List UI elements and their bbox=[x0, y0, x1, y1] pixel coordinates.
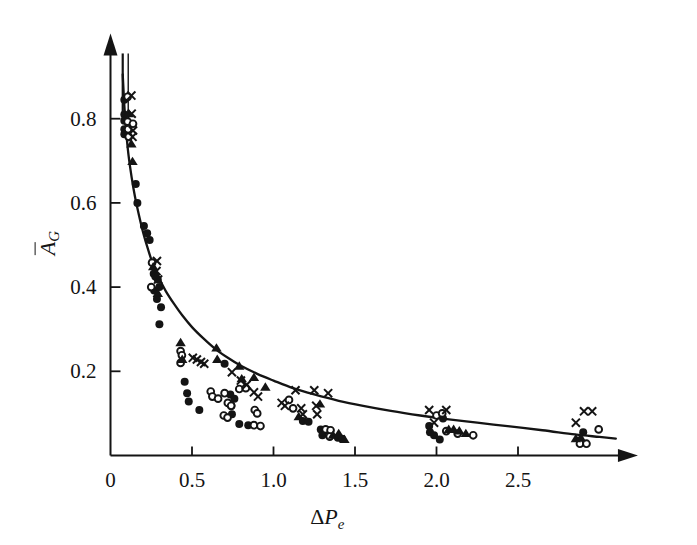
data-point-open-circle-23 bbox=[257, 423, 264, 430]
data-point-filled-circle-6 bbox=[133, 199, 141, 207]
data-point-filled-circle-22 bbox=[221, 360, 229, 368]
data-point-filled-circle-7 bbox=[140, 222, 148, 230]
data-point-cross-24 bbox=[324, 389, 332, 397]
x-tick-label-4: 2.0 bbox=[423, 468, 449, 493]
data-point-filled-circle-20 bbox=[185, 398, 193, 406]
data-point-filled-circle-30 bbox=[305, 418, 313, 426]
figure-container: 0.20.40.60.800.51.01.52.02.5 ΔPe AG bbox=[0, 0, 697, 545]
data-point-cross-17 bbox=[281, 402, 289, 410]
series-filled-triangle bbox=[124, 109, 586, 443]
data-point-open-circle-35 bbox=[583, 440, 590, 447]
data-point-cross-30 bbox=[588, 407, 596, 415]
y-tick-label-0: 0.2 bbox=[70, 359, 96, 384]
fit-curve bbox=[123, 75, 616, 439]
y-axis-title: AG bbox=[34, 231, 63, 255]
data-point-filled-triangle-5 bbox=[175, 338, 185, 346]
x-axis-title-delta: Δ bbox=[310, 504, 324, 529]
x-tick-label-3: 1.5 bbox=[342, 468, 368, 493]
data-point-filled-circle-14 bbox=[155, 283, 163, 291]
data-point-filled-circle-17 bbox=[155, 320, 163, 328]
x-tick-label-5: 2.5 bbox=[505, 468, 531, 493]
x-axis-arrowhead bbox=[618, 449, 638, 462]
data-markers-layer bbox=[120, 92, 602, 448]
axes-layer bbox=[104, 34, 638, 462]
data-point-open-circle-6 bbox=[148, 284, 155, 291]
y-tick-label-2: 0.6 bbox=[70, 190, 96, 215]
series-cross bbox=[127, 92, 596, 427]
data-point-filled-triangle-16 bbox=[333, 429, 343, 437]
data-point-open-circle-15 bbox=[228, 402, 235, 409]
x-axis-title: ΔPe bbox=[310, 504, 344, 533]
data-point-open-circle-33 bbox=[470, 432, 477, 439]
data-point-filled-triangle-8 bbox=[212, 355, 222, 363]
data-point-filled-circle-9 bbox=[146, 236, 154, 244]
fit-curve-layer bbox=[123, 75, 616, 439]
data-point-cross-21 bbox=[310, 386, 318, 394]
data-point-filled-circle-5 bbox=[132, 180, 140, 188]
data-point-filled-circle-18 bbox=[181, 378, 189, 386]
x-axis-title-base: P bbox=[324, 504, 337, 529]
y-tick-label-1: 0.4 bbox=[70, 275, 96, 300]
data-point-open-circle-25 bbox=[290, 405, 297, 412]
x-tick-label-1: 0.5 bbox=[179, 468, 205, 493]
data-point-filled-triangle-14 bbox=[315, 399, 325, 407]
series-open-circle bbox=[124, 93, 602, 447]
x-axis-title-subscript: e bbox=[338, 515, 345, 531]
x-tick-label-2: 1.0 bbox=[260, 468, 286, 493]
series-filled-circle bbox=[120, 96, 587, 444]
data-point-cross-23 bbox=[313, 410, 321, 418]
data-point-filled-circle-21 bbox=[195, 406, 203, 414]
data-point-open-circle-17 bbox=[224, 414, 231, 421]
data-point-filled-circle-19 bbox=[183, 389, 191, 397]
data-point-open-circle-12 bbox=[215, 395, 222, 402]
data-point-open-circle-36 bbox=[595, 426, 602, 433]
data-point-cross-29 bbox=[580, 407, 588, 415]
scatter-plot-svg bbox=[0, 0, 697, 545]
data-point-filled-circle-27 bbox=[235, 420, 243, 428]
data-point-open-circle-21 bbox=[254, 410, 261, 417]
data-point-filled-triangle-12 bbox=[260, 382, 270, 390]
y-axis-title-subscript: G bbox=[46, 231, 62, 242]
data-point-open-circle-3 bbox=[130, 120, 137, 127]
y-tick-label-3: 0.8 bbox=[70, 106, 96, 131]
data-point-cross-25 bbox=[425, 406, 433, 414]
x-tick-label-0: 0 bbox=[105, 468, 116, 493]
y-axis-arrowhead bbox=[104, 34, 118, 56]
data-point-open-circle-13 bbox=[221, 390, 228, 397]
data-point-filled-circle-41 bbox=[436, 436, 444, 444]
data-point-cross-28 bbox=[572, 419, 580, 427]
data-point-filled-circle-16 bbox=[157, 303, 165, 311]
data-point-cross-15 bbox=[254, 393, 262, 401]
y-axis-title-base: A bbox=[34, 242, 58, 255]
